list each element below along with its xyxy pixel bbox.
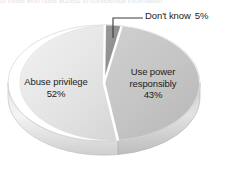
slice-label-dont-know-value: 5%	[195, 10, 209, 21]
pie-chart-figure: of those who have access to confidential…	[0, 0, 232, 170]
slice-label-dont-know: Don't know5%	[145, 10, 208, 22]
pie-divider-abuse-dontknow	[104, 25, 105, 83]
slice-label-dont-know-name: Don't know	[145, 10, 191, 21]
pie-chart-graphic	[0, 0, 232, 170]
